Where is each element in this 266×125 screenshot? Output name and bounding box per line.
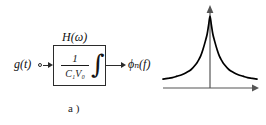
gain-fraction: 1 C₁V₀ (61, 52, 89, 80)
panel-a-caption: a ) (68, 102, 79, 114)
transfer-function-label: H(ω) (62, 31, 87, 43)
input-signal-label: g(t) (14, 58, 31, 70)
figure-container: H(ω) g(t) 1 C₁V₀ ∫ ϕₙ(f) a ) (0, 0, 266, 125)
transfer-function-block: 1 C₁V₀ ∫ (53, 45, 106, 86)
panel-b-spectrum-plot: Sϕₙ(f) 0 f b ) (140, 0, 266, 125)
fraction-denominator: C₁V₀ (61, 67, 89, 80)
x-axis (163, 85, 259, 92)
fraction-bar (61, 65, 89, 66)
output-arrow-icon (121, 62, 126, 68)
input-terminal-icon (38, 63, 42, 67)
panel-a-block-diagram: H(ω) g(t) 1 C₁V₀ ∫ ϕₙ(f) a ) (0, 0, 140, 125)
fraction-numerator: 1 (61, 52, 89, 64)
integral-icon: ∫ (91, 49, 105, 79)
psd-plot-area (140, 0, 266, 125)
